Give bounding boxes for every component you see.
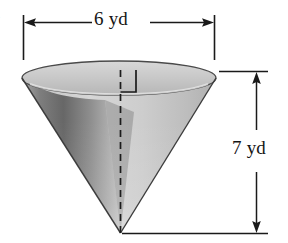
height-dimension-label: 7 yd <box>232 137 266 159</box>
width-dimension-label: 6 yd <box>94 8 128 30</box>
cone-diagram-svg <box>0 0 288 243</box>
cone-figure: . 6 yd 7 yd <box>0 0 288 243</box>
